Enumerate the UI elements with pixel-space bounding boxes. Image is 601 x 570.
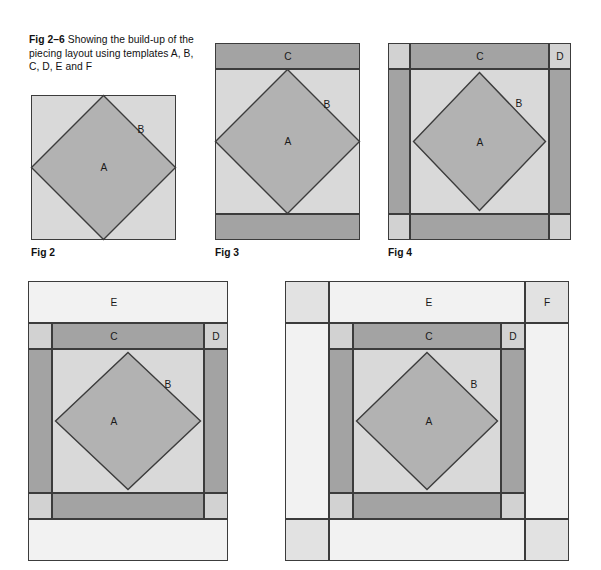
diagram-page: Fig 2–6 Showing the build-up of the piec…: [0, 0, 601, 570]
fig5-piece-E-bottom: [28, 519, 228, 561]
fig5-piece-E-top: [28, 281, 228, 323]
fig2-piece-A: [31, 95, 176, 240]
fig4-piece-D-topleft: [388, 43, 410, 69]
fig3-caption: Fig 3: [215, 247, 239, 258]
fig6-piece-E-top: [329, 281, 525, 323]
fig6-piece-C-top: [353, 323, 501, 349]
fig5-piece-C-right: [204, 349, 228, 493]
figure-fig4: C D B A Fig 4: [388, 43, 571, 240]
fig5-piece-C-left: [28, 349, 52, 493]
fig3-piece-A: [215, 69, 360, 214]
fig5-piece-C-bottom: [52, 493, 204, 519]
figure-fig2: A B Fig 2: [31, 95, 176, 240]
fig4-piece-C-top: [410, 43, 549, 69]
caption-figure-number: Fig 2–6: [29, 34, 65, 45]
figure-fig6: E F C D B A: [285, 281, 569, 561]
fig5-piece-D-topleft: [28, 323, 52, 349]
fig4-piece-A: [413, 72, 546, 211]
fig5-piece-D-bottomleft: [28, 493, 52, 519]
fig6-piece-F-bottomleft: [285, 519, 329, 561]
fig6-piece-F-bottomright: [525, 519, 569, 561]
fig4-piece-D-bottomright: [549, 214, 571, 240]
fig6-piece-E-left: [285, 323, 329, 519]
fig6-piece-C-right: [501, 349, 525, 493]
fig6-piece-D-bottomright: [501, 493, 525, 519]
fig6-piece-A: [356, 352, 498, 490]
fig6-piece-F-topright: [525, 281, 569, 323]
fig4-piece-D-bottomleft: [388, 214, 410, 240]
fig4-piece-C-left: [388, 69, 410, 214]
fig4-caption: Fig 4: [388, 247, 412, 258]
fig4-piece-C-bottom: [410, 214, 549, 240]
figure-fig5: E C D B A: [28, 281, 228, 561]
fig6-piece-D-topright: [501, 323, 525, 349]
fig6-piece-E-bottom: [329, 519, 525, 561]
fig6-piece-D-bottomleft: [329, 493, 353, 519]
figure-caption: Fig 2–6 Showing the build-up of the piec…: [29, 33, 204, 74]
fig3-piece-C-bottom: [215, 214, 360, 240]
fig6-piece-E-right: [525, 323, 569, 519]
fig5-piece-D-topright: [204, 323, 228, 349]
fig4-piece-D-topright: [549, 43, 571, 69]
fig6-piece-C-bottom: [353, 493, 501, 519]
fig3-piece-C-top: [215, 43, 360, 69]
fig5-piece-A: [55, 352, 201, 490]
fig6-piece-C-left: [329, 349, 353, 493]
fig4-piece-C-right: [549, 69, 571, 214]
fig5-piece-D-bottomright: [204, 493, 228, 519]
fig2-caption: Fig 2: [31, 247, 55, 258]
fig5-piece-C-top: [52, 323, 204, 349]
fig6-piece-F-topleft: [285, 281, 329, 323]
figure-fig3: C B A Fig 3: [215, 43, 360, 240]
fig6-piece-D-topleft: [329, 323, 353, 349]
